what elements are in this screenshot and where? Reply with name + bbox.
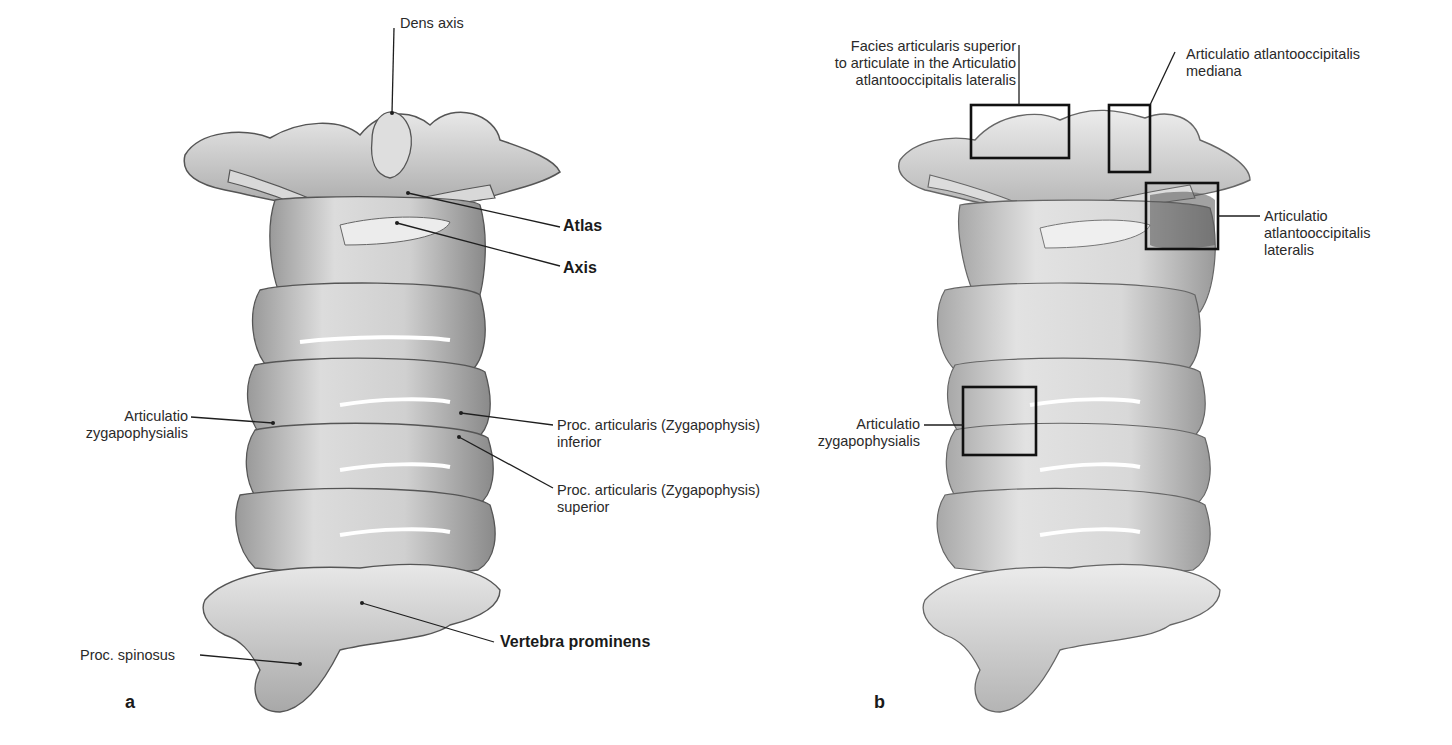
label-line-1: Articulatio [60,408,188,425]
panel-letter-a: a [125,692,135,713]
label-articulatio-atlantooccipitalis-lateralis: Articulatio atlantooccipitalis lateralis [1264,208,1370,259]
label-line-2: zygapophysialis [60,425,188,442]
label-line-3: atlantooccipitalis lateralis [770,72,1016,89]
label-line-2: mediana [1186,63,1360,80]
label-line-2: superior [557,499,760,516]
label-line-2: atlantooccipitalis [1264,225,1370,242]
label-facies-articularis-superior: Facies articularis superior to articulat… [770,38,1016,89]
label-atlas: Atlas [563,217,602,234]
label-axis: Axis [563,259,597,276]
label-line-2: zygapophysialis [800,433,920,450]
label-proc-spinosus: Proc. spinosus [80,647,175,664]
label-line-1: Proc. articularis (Zygapophysis) [557,417,760,434]
label-line-3: lateralis [1264,242,1370,259]
label-line-2: inferior [557,434,760,451]
label-proc-articularis-superior: Proc. articularis (Zygapophysis) superio… [557,482,760,516]
label-articulatio-zygapophysialis-b: Articulatio zygapophysialis [800,416,920,450]
label-line-1: Facies articularis superior [770,38,1016,55]
panel-a: Dens axis Atlas Axis Articulatio zygapop… [0,0,740,745]
label-dens-axis: Dens axis [400,15,464,32]
label-line-1: Proc. articularis (Zygapophysis) [557,482,760,499]
cervical-spine-illustration-b [740,0,1452,745]
label-articulatio-zygapophysialis-a: Articulatio zygapophysialis [60,408,188,442]
label-line-1: Articulatio [1264,208,1370,225]
label-line-1: Articulatio [800,416,920,433]
panel-b: Facies articularis superior to articulat… [740,0,1452,745]
label-vertebra-prominens: Vertebra prominens [500,633,650,650]
label-articulatio-atlantooccipitalis-mediana: Articulatio atlantooccipitalis mediana [1186,46,1360,80]
panel-letter-b: b [874,692,885,713]
label-line-2: to articulate in the Articulatio [770,55,1016,72]
label-proc-articularis-inferior: Proc. articularis (Zygapophysis) inferio… [557,417,760,451]
label-line-1: Articulatio atlantooccipitalis [1186,46,1360,63]
